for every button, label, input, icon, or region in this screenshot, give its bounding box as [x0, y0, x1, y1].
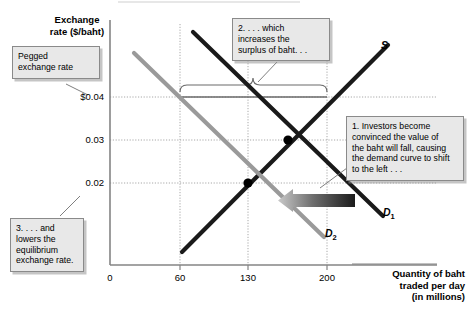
x-tick-label-130: 130: [233, 272, 263, 283]
demand-curve-1-label: D1: [383, 206, 395, 221]
x-axis-title: Quantity of baht traded per day (in mill…: [345, 268, 465, 303]
leader-line-lowers: [60, 196, 80, 216]
demand-curve-2-label-text: D: [325, 227, 333, 239]
x-tick-label-60: 60: [165, 272, 195, 283]
demand-curve-1-label-sub: 1: [391, 212, 395, 221]
demand-curve-1-label-text: D: [383, 206, 391, 218]
y-tick-label-004: $0.04: [48, 91, 104, 102]
leader-line-surplus: [258, 62, 277, 82]
y-tick-label-003: 0.03: [48, 134, 104, 145]
demand-curve-2-label: D2: [325, 227, 337, 242]
exchange-rate-surplus-figure: Exchange rate ($/baht) Quantity of baht …: [0, 0, 470, 324]
callout-pegged-exchange-rate: Pegged exchange rate: [12, 46, 100, 79]
callout-surplus: 2. . . . which increases the surplus of …: [232, 18, 330, 61]
demand-shift-arrow: [278, 189, 355, 212]
demand-curve-2: [134, 53, 324, 237]
demand-curve-2-label-sub: 2: [333, 233, 337, 242]
callout-lowers-equilibrium: 3. . . . and lowers the equilibrium exch…: [10, 218, 84, 272]
new-equilibrium-marker: [243, 178, 252, 187]
callout-investors: 1. Investors become convinced the value …: [346, 116, 464, 181]
supply-curve-label: S: [381, 39, 388, 51]
y-tick-label-002: 0.02: [48, 177, 104, 188]
x-tick-label-0: 0: [95, 272, 125, 283]
x-tick-label-200: 200: [312, 272, 342, 283]
supply-curve-label-text: S: [381, 39, 388, 51]
original-equilibrium-marker: [283, 135, 292, 144]
y-axis-title: Exchange rate ($/baht): [36, 14, 118, 37]
